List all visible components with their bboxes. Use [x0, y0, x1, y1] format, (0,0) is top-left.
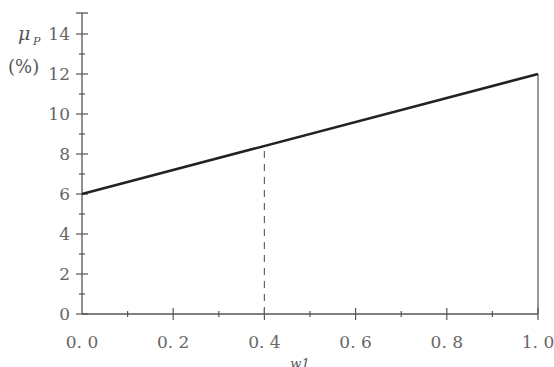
y-axis-label-subscript: P	[32, 35, 41, 48]
x-tick-label: 0. 0	[66, 332, 98, 352]
y-axis-label-unit: (%)	[8, 56, 39, 77]
y-tick-label: 14	[48, 24, 70, 44]
y-tick-label: 10	[48, 104, 70, 124]
data-series	[82, 74, 538, 194]
x-tick-label: 0. 6	[339, 332, 371, 352]
y-tick-label: 4	[59, 224, 70, 244]
x-tick-label: 1. 0	[522, 332, 554, 352]
x-tick-label: 0. 2	[157, 332, 189, 352]
return-line	[82, 74, 538, 194]
x-axis-label: w1	[290, 356, 309, 367]
y-tick-label: 0	[59, 304, 70, 324]
y-tick-label: 2	[59, 264, 70, 284]
y-tick-label: 8	[59, 144, 70, 164]
axes	[76, 13, 538, 314]
x-tick-label: 0. 8	[431, 332, 463, 352]
chart-canvas: 02468101214 0. 00. 20. 40. 60. 81. 0 μ P…	[0, 0, 554, 367]
x-tick-label: 0. 4	[248, 332, 280, 352]
y-tick-label: 12	[48, 64, 70, 84]
y-axis-label-symbol: μ	[18, 22, 30, 44]
y-tick-label: 6	[59, 184, 70, 204]
